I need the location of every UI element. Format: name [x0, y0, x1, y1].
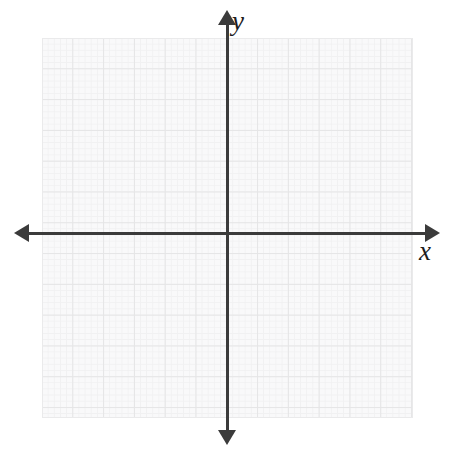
down-arrow-icon [218, 430, 236, 445]
x-axis-label: x [419, 238, 431, 265]
y-axis-line [226, 18, 229, 438]
y-axis-label: y [232, 8, 244, 35]
coordinate-plane-figure: y x [0, 0, 459, 453]
x-axis-line [24, 232, 434, 235]
left-arrow-icon [14, 224, 29, 242]
